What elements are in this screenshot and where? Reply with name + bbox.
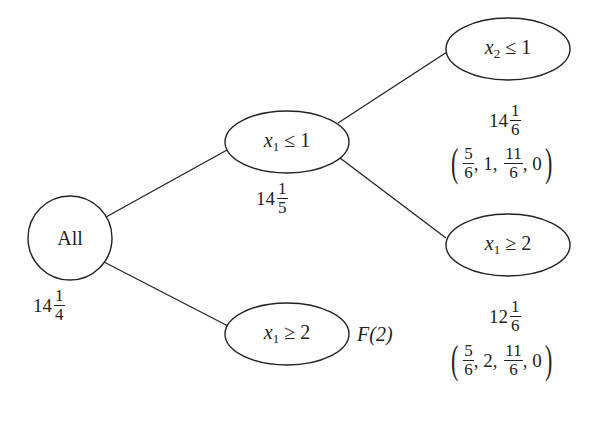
node-x1-ge-2-right-value: 12 16 bbox=[489, 298, 521, 335]
node-x1-ge-2-right: x1 ≥ 2 bbox=[485, 232, 531, 258]
node-x1-ge-2-right-solution: ( 56, 2, 116, 0 ) bbox=[448, 340, 555, 380]
node-x1-le-1: x1 ≤ 1 bbox=[264, 129, 310, 155]
node-x2-le-1: x2 ≤ 1 bbox=[485, 36, 531, 62]
node-root-label: All bbox=[57, 227, 83, 249]
node-x2-le-1-solution: ( 56, 1, 116, 0 ) bbox=[448, 143, 555, 183]
node-x2-le-1-value: 14 16 bbox=[489, 102, 521, 139]
node-x1-le-1-value: 14 15 bbox=[256, 180, 288, 217]
node-root: All bbox=[57, 227, 83, 250]
node-x1-ge-2-bottom: x1 ≥ 2 bbox=[264, 321, 310, 347]
node-x1-ge-2-annotation: F(2) bbox=[357, 324, 393, 344]
node-root-value: 14 14 bbox=[33, 287, 65, 324]
